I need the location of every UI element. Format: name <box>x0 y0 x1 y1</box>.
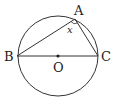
label-c: C <box>101 49 111 64</box>
center-point <box>56 54 59 57</box>
label-b: B <box>4 49 14 64</box>
label-a: A <box>73 3 84 18</box>
label-o: O <box>53 60 64 75</box>
segment-ac <box>75 19 98 56</box>
geometry-diagram: A B C O x <box>0 0 114 104</box>
angle-label-x: x <box>67 24 73 35</box>
